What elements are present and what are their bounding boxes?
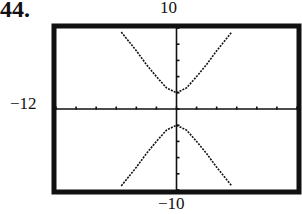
- graph-window: [0, 0, 302, 214]
